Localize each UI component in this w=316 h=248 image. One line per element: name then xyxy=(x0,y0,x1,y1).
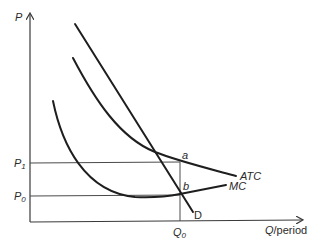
q0-label: Q0 xyxy=(173,226,187,240)
d-label: D xyxy=(194,209,202,221)
mc-label: MC xyxy=(229,180,246,192)
x-axis xyxy=(30,220,302,222)
q0-label-subscript: 0 xyxy=(182,231,187,240)
p0-guide-line xyxy=(30,195,180,196)
point-a-label: a xyxy=(182,149,188,161)
y-axis-label: P xyxy=(15,11,23,23)
p0-label: P0 xyxy=(14,190,26,204)
demand-curve xyxy=(75,24,193,212)
atc-curve xyxy=(73,58,236,176)
p0-label-subscript: 0 xyxy=(21,195,26,204)
p1-guide-line xyxy=(30,162,180,163)
p1-label: P1 xyxy=(14,157,26,171)
p1-label-subscript: 1 xyxy=(21,162,25,171)
point-b-label: b xyxy=(183,180,189,192)
mc-curve xyxy=(53,101,226,197)
x-axis-label: Q/period xyxy=(265,224,307,236)
cost-curve-diagram: P P1 P0 Q0 Q/period ATC MC D a b xyxy=(0,0,316,248)
x-axis-label-rest: /period xyxy=(274,224,308,236)
